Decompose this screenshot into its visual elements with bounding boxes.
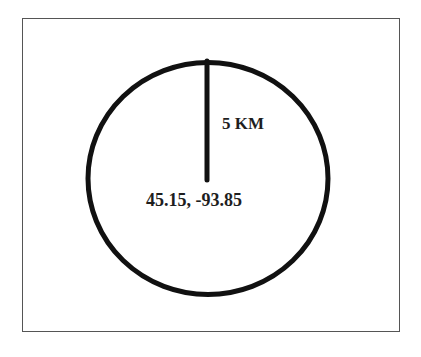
- center-coordinates-label: 45.15, -93.85: [146, 191, 242, 209]
- radius-label: 5 KM: [222, 115, 264, 132]
- radius-diagram: [0, 0, 421, 357]
